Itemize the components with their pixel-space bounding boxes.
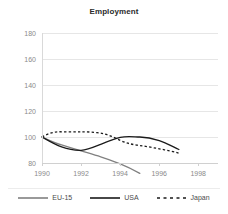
legend-label-eu-15: EU-15 (52, 194, 72, 202)
plot-area (42, 33, 218, 163)
line-dashed-black-icon (157, 194, 187, 202)
y-tick-label-120: 120 (8, 108, 36, 115)
x-tick-mark-1994 (120, 163, 121, 166)
y-axis-line (42, 33, 43, 164)
legend-item-usa[interactable]: USA (90, 194, 138, 202)
line-solid-gray-icon (18, 194, 48, 202)
chart-legend: EU-15 USA Japan (0, 194, 228, 202)
x-tick-mark-1990 (42, 163, 43, 166)
chart-title: Employment (0, 7, 228, 16)
legend-item-japan[interactable]: Japan (157, 194, 210, 202)
y-tick-label-160: 160 (8, 56, 36, 63)
legend-label-japan: Japan (191, 194, 210, 202)
line-solid-black-icon (90, 194, 120, 202)
series-line-japan (42, 132, 179, 153)
x-tick-label-1998: 1998 (181, 170, 215, 177)
legend-label-usa: USA (124, 194, 138, 202)
x-tick-mark-1996 (159, 163, 160, 166)
y-tick-label-80: 80 (8, 160, 36, 167)
x-tick-label-1994: 1994 (103, 170, 137, 177)
series-line-eu-15 (42, 137, 140, 173)
x-tick-mark-1998 (198, 163, 199, 166)
x-tick-label-1990: 1990 (25, 170, 59, 177)
x-axis-line (42, 163, 218, 164)
x-tick-label-1992: 1992 (64, 170, 98, 177)
y-tick-label-100: 100 (8, 134, 36, 141)
series-plot (42, 33, 218, 163)
y-tick-label-140: 140 (8, 82, 36, 89)
employment-chart: Employment 180 160 140 120 100 80 1990 1… (0, 0, 228, 214)
x-tick-mark-1992 (81, 163, 82, 166)
x-tick-label-1996: 1996 (142, 170, 176, 177)
legend-item-eu-15[interactable]: EU-15 (18, 194, 72, 202)
legend-divider (8, 188, 220, 189)
y-tick-label-180: 180 (8, 30, 36, 37)
